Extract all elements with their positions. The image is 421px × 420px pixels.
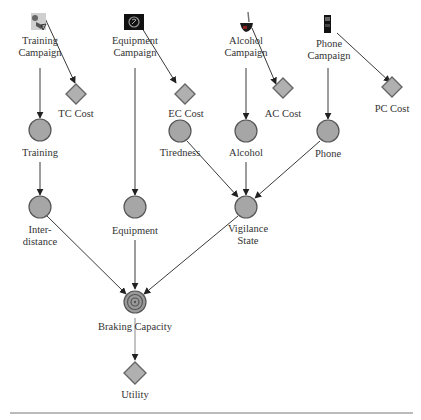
label: distance xyxy=(23,236,58,247)
label: Alcohol xyxy=(229,35,263,46)
cost-node-tc[interactable]: TC Cost xyxy=(58,84,93,119)
label: Campaign xyxy=(113,47,157,58)
diamond-icon xyxy=(382,77,402,97)
label: Campaign xyxy=(18,47,62,58)
diamond-icon xyxy=(124,362,146,384)
decision-equipment-campaign[interactable]: Equipment Campaign xyxy=(112,14,158,58)
label: State xyxy=(238,235,259,246)
circle-icon xyxy=(235,196,257,218)
label: Equipment xyxy=(112,225,158,236)
circle-icon xyxy=(124,196,146,218)
label: Training xyxy=(22,35,59,46)
diamond-icon xyxy=(273,78,293,98)
target-icon xyxy=(124,291,146,313)
chance-node-alcohol[interactable]: Alcohol xyxy=(229,120,263,158)
edge-vigilance-braking xyxy=(144,216,238,294)
decision-alcohol-campaign[interactable]: Alcohol Campaign xyxy=(224,12,268,58)
chance-node-phone[interactable]: Phone xyxy=(315,120,342,159)
training-icon xyxy=(31,13,46,30)
label: PC Cost xyxy=(375,103,410,114)
circle-icon xyxy=(29,196,51,218)
mobile-phone-icon xyxy=(324,15,331,33)
label: EC Cost xyxy=(168,108,203,119)
label: AC Cost xyxy=(265,108,302,119)
label: Phone xyxy=(316,38,343,49)
label: Phone xyxy=(315,148,342,159)
decision-training-campaign[interactable]: Training Campaign xyxy=(18,13,62,58)
circle-icon xyxy=(169,120,191,142)
label: Tiredness xyxy=(160,147,200,158)
circle-icon xyxy=(317,120,339,142)
cost-node-pc[interactable]: PC Cost xyxy=(375,77,410,114)
cost-node-ac[interactable]: AC Cost xyxy=(265,78,302,119)
label: TC Cost xyxy=(58,108,93,119)
label: Equipment xyxy=(112,35,158,46)
decision-phone-campaign[interactable]: Phone Campaign xyxy=(307,15,351,61)
edges xyxy=(40,14,390,360)
alcohol-glass-icon xyxy=(240,12,253,32)
chance-node-tiredness[interactable]: Tiredness xyxy=(160,120,200,158)
label: Vigilance xyxy=(228,223,269,234)
label: Utility xyxy=(121,389,149,400)
label: Campaign xyxy=(224,47,268,58)
utility-node[interactable]: Utility xyxy=(121,362,149,400)
cost-node-ec[interactable]: EC Cost xyxy=(168,84,203,119)
label: Alcohol xyxy=(229,147,263,158)
equipment-icon xyxy=(124,14,144,30)
chance-node-training[interactable]: Training xyxy=(22,119,59,158)
chance-node-equipment[interactable]: Equipment xyxy=(112,196,158,236)
label: Training xyxy=(22,147,59,158)
target-node-braking-capacity[interactable]: Braking Capacity xyxy=(98,291,173,332)
edge-phone-vigilance xyxy=(255,141,320,198)
label: Campaign xyxy=(307,50,351,61)
label: Inter- xyxy=(28,224,52,235)
diamond-icon xyxy=(175,84,195,104)
circle-icon xyxy=(29,119,51,141)
label: Braking Capacity xyxy=(98,321,173,332)
diamond-icon xyxy=(66,84,86,104)
influence-diagram: Training Campaign Equipment Campaign Alc… xyxy=(0,0,421,420)
circle-icon xyxy=(235,120,257,142)
chance-node-vigilance[interactable]: Vigilance State xyxy=(228,196,269,246)
